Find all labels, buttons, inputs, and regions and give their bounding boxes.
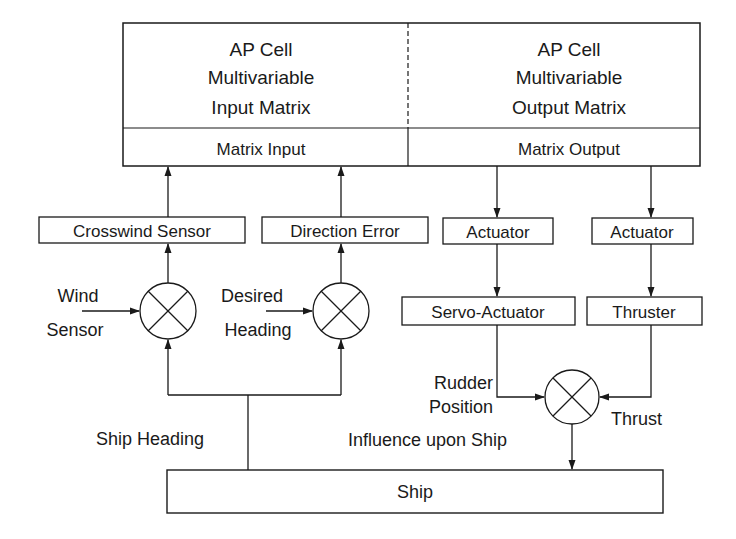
matrix-input-label: Matrix Input bbox=[217, 140, 306, 159]
ship-block: Ship bbox=[167, 470, 663, 513]
svg-text:Crosswind Sensor: Crosswind Sensor bbox=[73, 222, 211, 241]
input-matrix-line2: Multivariable bbox=[208, 67, 315, 88]
actuator-left-block: Actuator bbox=[443, 218, 553, 244]
wind-sensor-label-1: Wind bbox=[57, 286, 98, 306]
block-diagram: AP Cell Multivariable Input Matrix AP Ce… bbox=[0, 0, 736, 539]
wind-sensor-label-2: Sensor bbox=[46, 320, 103, 340]
desired-heading-label-2: Heading bbox=[224, 320, 291, 340]
connectors bbox=[82, 166, 651, 470]
svg-text:Direction Error: Direction Error bbox=[290, 222, 400, 241]
input-matrix-line3: Input Matrix bbox=[211, 97, 311, 118]
svg-text:Actuator: Actuator bbox=[466, 223, 530, 242]
influence-label: Influence upon Ship bbox=[348, 430, 507, 450]
thrust-label: Thrust bbox=[611, 409, 662, 429]
output-matrix-line1: AP Cell bbox=[537, 39, 600, 60]
svg-text:Thruster: Thruster bbox=[612, 303, 676, 322]
matrix-output-label: Matrix Output bbox=[518, 140, 620, 159]
crosswind-sensor-block: Crosswind Sensor bbox=[39, 217, 245, 243]
actuator-right-block: Actuator bbox=[592, 218, 693, 244]
ap-cell-block: AP Cell Multivariable Input Matrix AP Ce… bbox=[123, 23, 700, 166]
svg-text:Actuator: Actuator bbox=[610, 223, 674, 242]
input-matrix-line1: AP Cell bbox=[229, 39, 292, 60]
output-matrix-line3: Output Matrix bbox=[512, 97, 627, 118]
junction-heading bbox=[313, 283, 369, 339]
junction-wind bbox=[140, 283, 196, 339]
svg-text:Ship: Ship bbox=[397, 482, 433, 502]
direction-error-block: Direction Error bbox=[262, 217, 428, 243]
desired-heading-label-1: Desired bbox=[221, 286, 283, 306]
servo-actuator-block: Servo-Actuator bbox=[402, 297, 575, 325]
output-matrix-line2: Multivariable bbox=[516, 67, 623, 88]
ship-heading-label: Ship Heading bbox=[96, 429, 204, 449]
svg-text:Servo-Actuator: Servo-Actuator bbox=[431, 303, 545, 322]
rudder-position-label-2: Position bbox=[429, 397, 493, 417]
junction-influence bbox=[545, 370, 599, 424]
thruster-block: Thruster bbox=[587, 297, 702, 325]
rudder-position-label-1: Rudder bbox=[434, 373, 493, 393]
